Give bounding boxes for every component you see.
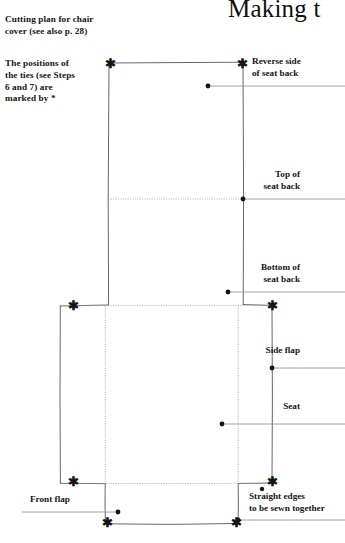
dot-reverse-side	[206, 84, 211, 89]
dot-bottom-of-seat-back	[226, 290, 231, 295]
dot-front-flap	[116, 510, 121, 515]
tie-marker-mid-left: ✱	[68, 298, 79, 313]
callout-front-flap: Front flap	[30, 494, 70, 506]
dot-side-flap	[270, 366, 275, 371]
tie-marker-lower-right: ✱	[267, 474, 278, 489]
callout-straight-edges-to-be-sewn-together: Straight edges to be sewn together	[249, 491, 325, 515]
callout-side-flap: Side flap	[266, 345, 300, 357]
upper-panel-outline	[108, 62, 243, 305]
callout-leader-dots	[116, 84, 275, 523]
page-canvas: Making t Cutting plan for chair cover (s…	[0, 0, 345, 543]
tie-marker-upper-left: ✱	[105, 56, 116, 71]
tie-marker-mid-right: ✱	[267, 298, 278, 313]
tie-marker-flap-left: ✱	[102, 515, 113, 530]
tie-marker-flap-right: ✱	[231, 515, 242, 530]
callout-seat: Seat	[283, 401, 300, 413]
dot-seat	[220, 422, 225, 427]
callout-top-of-seat-back: Top of seat back	[264, 169, 301, 193]
lower-panel-outline	[60, 305, 272, 484]
dot-top-of-seat-back	[241, 197, 246, 202]
tie-marker-lower-left: ✱	[68, 474, 79, 489]
callout-bottom-of-seat-back: Bottom of seat back	[261, 262, 300, 286]
front-flap-outline	[105, 484, 238, 525]
fold-lines	[60, 199, 272, 483]
tie-marker-upper-right: ✱	[237, 56, 248, 71]
tie-markers: ✱ ✱ ✱ ✱ ✱ ✱ ✱ ✱	[68, 56, 278, 530]
callout-reverse-side-of-seat-back: Reverse side of seat back	[252, 56, 301, 80]
